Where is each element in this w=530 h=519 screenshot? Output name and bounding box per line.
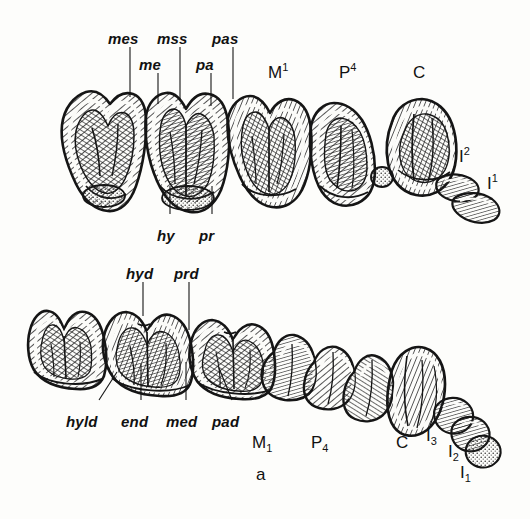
- label-upper-i2: I2: [459, 148, 470, 165]
- label-mss: mss: [157, 31, 188, 46]
- label-upper-m1-index: 1: [282, 61, 288, 73]
- label-lower-m1: M1: [252, 434, 272, 451]
- upper-tooth-m2: [145, 93, 229, 212]
- label-pas: pas: [212, 31, 238, 46]
- lower-tooth-left: [28, 311, 106, 389]
- label-me: me: [139, 57, 161, 72]
- label-upper-i1: I1: [487, 175, 498, 192]
- label-upper-c-base: C: [413, 63, 425, 82]
- upper-tooth-p4: [310, 103, 393, 206]
- label-upper-p4-base: P: [339, 63, 350, 82]
- label-pr: pr: [199, 228, 214, 243]
- figure-caption: a: [256, 466, 265, 483]
- label-upper-m1: M1: [268, 64, 288, 81]
- label-hyld: hyld: [66, 414, 98, 429]
- label-hy: hy: [157, 228, 175, 243]
- lower-tooth-m2: [189, 320, 275, 399]
- label-lower-i3-index: 3: [431, 435, 437, 447]
- label-lower-c-base: C: [396, 433, 408, 452]
- label-upper-i2-index: 2: [464, 145, 470, 157]
- label-pa: pa: [196, 57, 214, 72]
- label-lower-i1: I1: [460, 464, 471, 481]
- upper-tooth-m1: [228, 96, 312, 207]
- label-upper-c: C: [413, 64, 425, 81]
- label-upper-p4: P4: [339, 64, 356, 81]
- label-end: end: [121, 414, 148, 429]
- label-pad: pad: [212, 414, 239, 429]
- label-lower-i1-index: 1: [465, 472, 471, 484]
- label-lower-m1-index: 1: [266, 442, 272, 454]
- label-mes: mes: [108, 31, 139, 46]
- label-upper-m1-base: M: [268, 63, 282, 82]
- label-lower-p4: P4: [311, 434, 328, 451]
- label-lower-i3: I3: [426, 427, 437, 444]
- label-upper-p4-index: 4: [350, 61, 356, 73]
- lower-tooth-m1: [103, 312, 193, 396]
- label-upper-i1-index: 1: [492, 172, 498, 184]
- lower-incisors: [434, 398, 501, 468]
- label-lower-i2: I2: [448, 443, 459, 460]
- figure-illustration: mes me mss pa pas hy pr M1 P4 C I2 I1 hy…: [0, 0, 530, 519]
- label-hyd: hyd: [126, 266, 153, 281]
- label-lower-c: C: [396, 434, 408, 451]
- label-lower-p4-base: P: [311, 433, 322, 452]
- upper-tooth-left: [62, 91, 147, 211]
- label-prd: prd: [174, 266, 199, 281]
- label-lower-m1-base: M: [252, 433, 266, 452]
- label-lower-i2-index: 2: [453, 451, 459, 463]
- label-lower-p4-index: 4: [322, 442, 328, 454]
- label-med: med: [166, 414, 197, 429]
- lower-premolars: [262, 335, 394, 421]
